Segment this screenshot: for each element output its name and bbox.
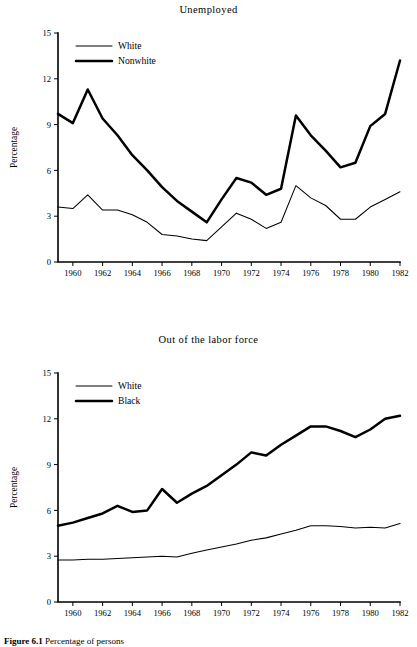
x-tick-label: 1972 (243, 268, 260, 278)
y-tick-label: 12 (42, 74, 51, 84)
series-line-white (58, 186, 400, 241)
x-tick-label: 1962 (94, 608, 111, 618)
x-tick-label: 1970 (213, 608, 230, 618)
x-tick-label: 1974 (272, 268, 290, 278)
y-tick-label: 0 (47, 257, 51, 267)
figure-page: Unemployed 03691215196019621964196619681… (0, 0, 417, 647)
x-tick-label: 1978 (332, 608, 349, 618)
x-tick-label: 1976 (302, 268, 320, 278)
x-tick-label: 1976 (302, 608, 320, 618)
x-tick-label: 1970 (213, 268, 230, 278)
x-tick-label: 1964 (124, 268, 142, 278)
x-tick-label: 1960 (64, 608, 81, 618)
y-tick-label: 3 (47, 551, 51, 561)
x-tick-label: 1978 (332, 268, 349, 278)
legend-label-black: Black (118, 395, 141, 406)
y-tick-label: 0 (47, 597, 51, 607)
x-tick-label: 1982 (391, 268, 408, 278)
chart-out-of-labor-force: Out of the labor force 03691215196019621… (0, 330, 417, 630)
x-tick-label: 1966 (153, 268, 171, 278)
figure-caption: Figure 6.1 Percentage of persons (4, 636, 414, 646)
x-tick-label: 1960 (64, 268, 81, 278)
x-tick-label: 1962 (94, 268, 111, 278)
chart-unemployed: Unemployed 03691215196019621964196619681… (0, 0, 417, 320)
y-tick-label: 15 (42, 28, 51, 38)
x-tick-label: 1968 (183, 268, 200, 278)
chart-canvas-unemployed: 0369121519601962196419661968197019721974… (0, 0, 417, 320)
figure-caption-number: Figure 6.1 (4, 636, 43, 646)
series-line-nonwhite (58, 60, 400, 222)
x-tick-label: 1966 (153, 608, 171, 618)
x-tick-label: 1982 (391, 608, 408, 618)
x-tick-label: 1972 (243, 608, 260, 618)
x-tick-label: 1980 (362, 268, 379, 278)
y-tick-label: 15 (42, 368, 51, 378)
figure-caption-text: Percentage of persons (45, 636, 124, 646)
y-tick-label: 9 (47, 460, 51, 470)
legend-label-nonwhite: Nonwhite (118, 55, 156, 66)
x-tick-label: 1968 (183, 608, 200, 618)
x-tick-label: 1964 (124, 608, 142, 618)
y-axis-title: Percentage (9, 127, 19, 168)
x-tick-label: 1974 (272, 608, 290, 618)
legend-label-white: White (118, 40, 141, 51)
y-tick-label: 3 (47, 211, 51, 221)
y-tick-label: 9 (47, 120, 51, 130)
y-axis-title: Percentage (9, 467, 19, 508)
chart-canvas-out-of-labor-force: 0369121519601962196419661968197019721974… (0, 330, 417, 630)
y-tick-label: 12 (42, 414, 51, 424)
legend-label-white: White (118, 380, 141, 391)
series-line-black (58, 416, 400, 526)
y-tick-label: 6 (47, 166, 52, 176)
series-line-white (58, 523, 400, 560)
y-tick-label: 6 (47, 506, 52, 516)
x-tick-label: 1980 (362, 608, 379, 618)
